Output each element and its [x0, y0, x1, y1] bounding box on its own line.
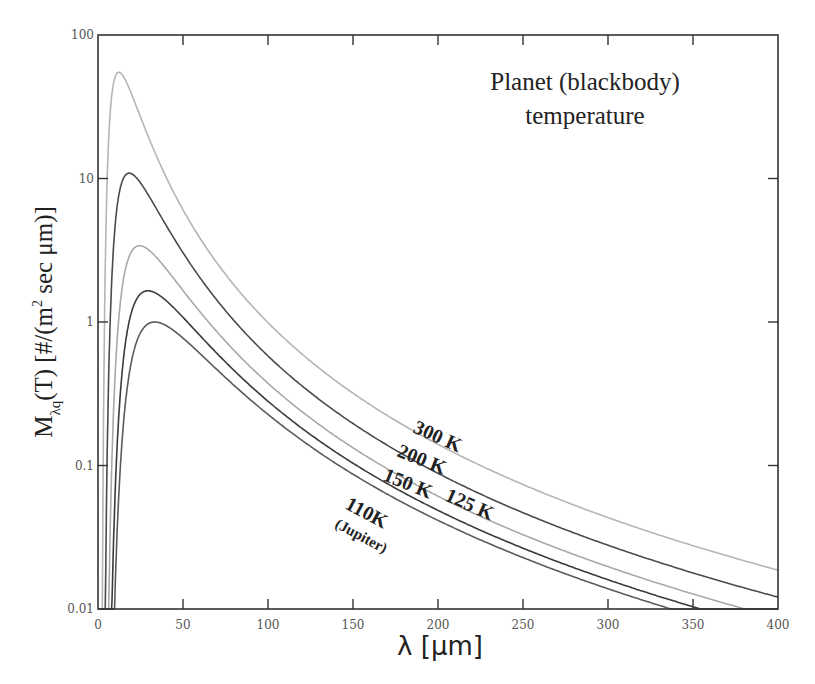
y-axis-ticks: 0.010.1110100 [67, 28, 778, 616]
x-tick-label: 0 [94, 618, 102, 632]
x-tick-label: 400 [767, 618, 790, 632]
y-tick-label: 0.01 [67, 602, 94, 616]
y-tick-label: 0.1 [75, 459, 94, 473]
x-tick-label: 250 [512, 618, 535, 632]
x-tick-label: 100 [257, 618, 280, 632]
curve-300k [99, 72, 778, 609]
x-tick-label: 150 [342, 618, 365, 632]
x-tick-label: 350 [682, 618, 705, 632]
blackbody-chart: 050100150200250300350400 0.010.1110100 λ… [0, 0, 815, 684]
y-tick-label: 10 [79, 172, 94, 186]
chart-title-line2: temperature [525, 102, 644, 129]
x-axis-label: λ [μm] [397, 631, 483, 661]
curve-125k [99, 291, 778, 609]
x-tick-label: 300 [597, 618, 620, 632]
plot-frame [98, 35, 778, 609]
y-tick-label: 1 [86, 315, 94, 329]
x-tick-label: 50 [175, 618, 190, 632]
curves-group [99, 72, 778, 609]
chart-title-line1: Planet (blackbody) [490, 68, 680, 96]
x-tick-label: 200 [427, 618, 450, 632]
y-axis-label: Mλq(T) [#/(m2 sec μm)] [30, 206, 63, 438]
y-tick-label: 100 [71, 28, 94, 42]
